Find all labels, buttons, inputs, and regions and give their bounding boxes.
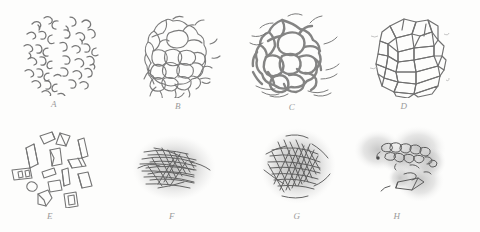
panel-c-label: C [282,102,302,112]
panel-d-drawing [368,14,450,98]
panel-b-drawing [140,14,222,98]
panel-d-label: D [394,101,414,111]
panel-e [8,128,100,208]
panel-a [18,8,108,96]
panel-h-drawing [352,124,452,208]
panel-c [248,10,344,102]
panel-e-drawing [8,128,100,208]
panel-b [140,14,222,98]
panel-d [368,14,450,98]
panel-f-label: F [162,211,182,221]
panel-f [128,128,220,208]
panel-g [252,124,344,208]
panel-f-halo [132,135,216,201]
panel-a-drawing [18,8,108,96]
panel-c-drawing [248,10,344,102]
panel-h-label: H [387,211,407,221]
panel-h-halo [354,126,446,202]
panel-f-drawing [128,128,220,208]
panel-h-dot [376,156,379,159]
panel-g-drawing [252,124,344,208]
panel-g-label: G [287,211,307,221]
figure-plate: A [0,0,480,232]
panel-b-label: B [168,101,188,111]
panel-g-halo [260,128,336,204]
panel-e-label: E [40,211,60,221]
panel-a-label: A [44,99,64,109]
panel-h [352,124,452,208]
